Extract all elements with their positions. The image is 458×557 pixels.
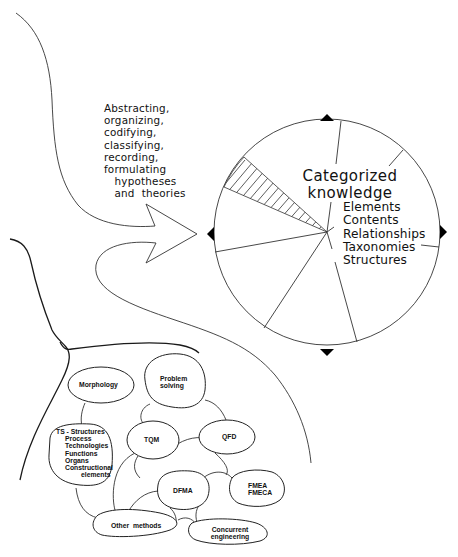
radial-line (327, 202, 331, 232)
ts-line: Organs (56, 457, 89, 464)
fmea-label: FMEA FMECA (248, 482, 272, 496)
concurrent-line: engineering (211, 533, 250, 540)
right-marker-icon (440, 225, 447, 239)
process-line: formulating (104, 163, 166, 175)
knowledge-item: Structures (343, 253, 407, 267)
radial-line (215, 232, 327, 252)
fmea-line: FMEA (248, 482, 267, 489)
problem-solving-label: Problem solving (160, 375, 187, 389)
knowledge-title: Categorized knowledge (300, 168, 400, 202)
process-line: classifying, (104, 139, 164, 151)
radial-line (264, 232, 327, 328)
morphology-label: Morphology (79, 381, 118, 388)
ts-line: Constructional (56, 464, 113, 471)
radial-line (336, 121, 341, 164)
knowledge-diagram: Abstracting, organizing, codifying, clas… (0, 0, 458, 557)
concurrent-engineering-label: Concurrent engineering (200, 526, 260, 540)
bottom-marker-icon (320, 349, 334, 356)
process-line: codifying, (104, 126, 157, 138)
process-line: hypotheses (104, 175, 176, 187)
concurrent-line: Concurrent (212, 526, 249, 533)
fmea-line: FMECA (248, 489, 272, 496)
tqm-label: TQM (144, 436, 159, 443)
radial-line (327, 227, 334, 232)
left-marker-icon (207, 227, 214, 241)
knowledge-item: Elements (343, 200, 401, 214)
ts-line: Functions (56, 450, 97, 457)
arrowhead (146, 204, 197, 263)
knowledge-item: Taxonomies (343, 240, 415, 254)
problem-solving-line: solving (160, 382, 184, 389)
ts-line: Technologies (56, 442, 108, 449)
ts-line: elements (56, 471, 110, 478)
knowledge-items: Elements Contents Relationships Taxonomi… (343, 201, 425, 267)
qfd-label: QFD (222, 433, 236, 440)
dfma-label: DFMA (173, 487, 193, 494)
radial-line (389, 150, 403, 166)
ts-line: Process (56, 435, 91, 442)
top-marker-icon (320, 114, 334, 121)
knowledge-title-line: Categorized (303, 167, 398, 185)
process-line: Abstracting, (104, 102, 169, 114)
radial-line (327, 232, 332, 249)
knowledge-item: Relationships (343, 227, 425, 241)
radial-line (335, 262, 357, 342)
process-label: Abstracting, organizing, codifying, clas… (104, 102, 186, 200)
other-methods-label: Other methods (111, 522, 161, 529)
process-line: organizing, (104, 114, 164, 126)
process-line: and theories (104, 187, 186, 199)
branch-line (60, 342, 199, 353)
ts-structures-label: TS - Structures Process Technologies Fun… (56, 428, 113, 478)
process-line: recording, (104, 151, 159, 163)
ts-line: TS - Structures (56, 428, 105, 435)
knowledge-item: Contents (343, 213, 399, 227)
problem-solving-line: Problem (160, 375, 187, 382)
